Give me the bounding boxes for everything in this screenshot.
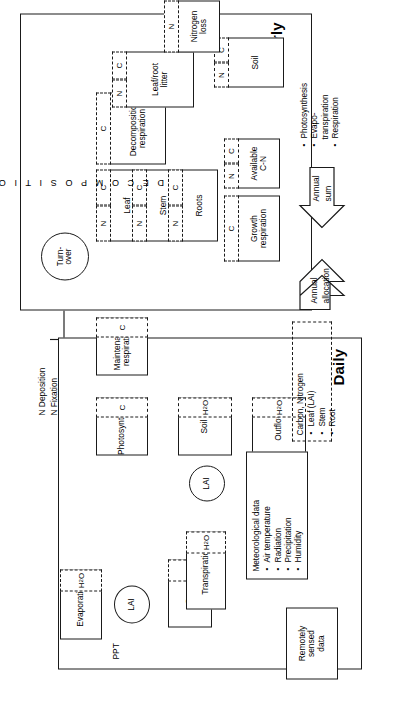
annual-sum-label-line1: Annual (312, 175, 322, 201)
annual-sum-item-evapotranspiration: Evapo- transpiration (310, 82, 331, 138)
evapo-line2: transpiration (321, 94, 330, 139)
figure-canvas: Yearly N Deposition N Fixation Turn- ove… (0, 0, 394, 727)
annual-sum-label-line2: sum (324, 185, 334, 201)
annual-sum-list: Photosynthesis Evapo- transpiration Resp… (300, 82, 341, 147)
annual-allocation-label-line1: Annual (310, 277, 320, 303)
annual-sum-item-respiration: Respiration (331, 82, 341, 138)
annual-allocation-label-line2: allocation (322, 268, 332, 303)
annual-sum-item-photosynthesis: Photosynthesis (300, 82, 310, 138)
ecosystem-model-diagram: Yearly N Deposition N Fixation Turn- ove… (0, 0, 394, 727)
evapo-line1: Evapo- (310, 112, 319, 138)
